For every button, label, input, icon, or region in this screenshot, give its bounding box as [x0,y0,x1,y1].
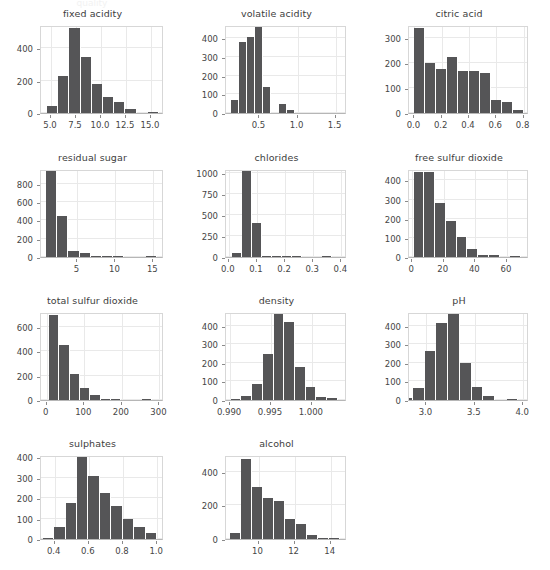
x-axis-tick-mark [284,259,285,262]
histogram-bar [413,388,425,400]
histogram-bar [57,216,68,257]
y-axis-tick-mark [405,327,408,328]
histogram-bar [80,388,90,400]
y-axis-tick-mark [405,201,408,202]
histogram-bar [113,256,124,257]
y-axis-tick-mark [37,114,40,115]
histogram-bar [329,538,340,539]
x-axis-tick-mark [413,115,414,118]
histogram-bar [295,367,306,400]
y-axis-tick-mark [222,258,225,259]
gridline-vertical [159,314,160,400]
x-axis-tick-mark [150,115,151,118]
histogram-bar [469,71,480,113]
x-axis-tick-label: 0.4 [47,546,61,556]
x-axis-tick-label: 0.6 [489,120,503,130]
histogram-bar [296,524,307,539]
x-axis-tick-label: 0.8 [115,546,129,556]
y-axis-tick-mark [222,401,225,402]
x-axis-tick-label: 0.4 [461,120,475,130]
y-axis-tick-mark [222,364,225,365]
chart-title: alcohol [185,438,368,449]
histogram-bar [306,387,317,400]
y-axis-tick-mark [37,82,40,83]
histogram-grid: qualityfixed acidity02004005.07.510.012.… [0,0,550,570]
x-axis-tick-mark [121,402,122,405]
histogram-bar [146,256,157,257]
x-axis-tick-mark [312,259,313,262]
x-axis-tick-label: 15.0 [141,120,160,130]
y-axis-tick-mark [37,479,40,480]
histogram-bar [123,519,134,539]
x-axis-tick-label: 0 [43,407,48,417]
y-axis-tick-mark [405,220,408,221]
x-axis-tick-label: 100 [75,407,91,417]
y-axis-tick-label: 500 [185,211,218,221]
x-axis-tick-label: 0.5 [252,120,266,130]
gridline-vertical [115,171,116,257]
x-axis-tick-mark [411,259,412,262]
histogram-bar [146,533,157,539]
histogram-bar [448,314,460,400]
x-axis-tick-mark [294,541,295,544]
y-axis-tick-label: 200 [368,59,401,69]
plot-axes [225,456,346,540]
histogram-bar [318,538,329,539]
histogram-bar [111,399,121,400]
y-axis-tick-mark [222,327,225,328]
y-axis-tick-mark [222,473,225,474]
x-axis-tick-label: 1.000 [299,407,323,417]
y-axis-tick-label: 200 [185,501,218,511]
y-axis-tick-mark [405,258,408,259]
y-axis-tick-label: 300 [368,340,401,350]
y-axis-tick-label: 300 [185,53,218,63]
y-axis-tick-label: 100 [368,234,401,244]
plot-axes [408,170,528,258]
chart-panel-chlorides: chlorides025050075010000.00.10.20.30.4 [185,152,368,288]
plot-axes [408,26,528,114]
histogram-bar [513,110,524,113]
gridline-vertical [126,27,127,113]
x-axis-tick-label: 4.0 [515,407,529,417]
chart-title: fixed acidity [0,8,185,19]
histogram-bar [263,498,274,539]
y-axis-tick-mark [222,345,225,346]
y-axis-tick-label: 200 [368,359,401,369]
chart-panel-fixed-acidity: fixed acidity02004005.07.510.012.515.0 [0,8,185,144]
x-axis-tick-mark [270,402,271,405]
y-axis-tick-label: 200 [185,359,218,369]
x-axis-tick-mark [425,402,426,405]
y-axis-tick-mark [37,240,40,241]
chart-panel-free-sulfur-dioxide: free sulfur dioxide01002003004000204060 [368,152,550,288]
y-axis-tick-mark [37,499,40,500]
x-axis-tick-label: 5.0 [43,120,57,130]
y-axis-tick-label: 0 [0,253,33,263]
y-axis-tick-mark [405,89,408,90]
x-axis-tick-mark [297,115,298,118]
x-axis-tick-label: 0.3 [305,264,319,274]
gridline-vertical [285,171,286,257]
chart-title: citric acid [368,8,550,19]
histogram-bar [90,395,100,400]
y-axis-tick-label: 300 [0,474,33,484]
histogram-bar [447,57,458,113]
plot-axes [408,313,528,401]
y-axis-tick-mark [37,185,40,186]
plot-region [225,170,346,258]
histogram-bar [414,28,425,113]
histogram-bar [91,256,102,257]
histogram-bar [247,37,255,113]
x-axis-tick-mark [88,541,89,544]
x-axis-tick-label: 0.990 [217,407,241,417]
histogram-bar [446,221,457,257]
y-axis-tick-mark [222,382,225,383]
y-axis-tick-label: 100 [368,377,401,387]
plot-axes [40,313,163,401]
y-axis-tick-mark [37,520,40,521]
x-axis-tick-label: 0.2 [277,264,291,274]
y-axis-tick-mark [405,239,408,240]
chart-panel-density: density01002003004000.9900.9951.000 [185,295,368,431]
histogram-bar [100,493,111,539]
histogram-bar [467,249,478,257]
chart-panel-total-sulfur-dioxide: total sulfur dioxide02004006000100200300 [0,295,185,431]
